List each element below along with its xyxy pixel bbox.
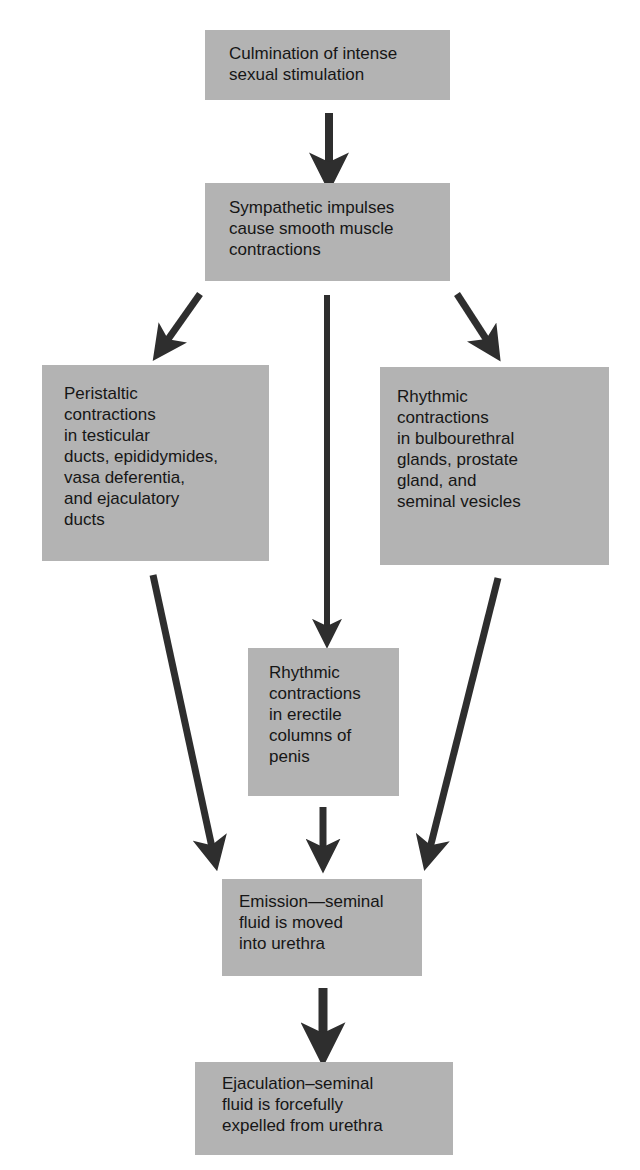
- node-emission: Emission—seminal fluid is moved into ure…: [222, 879, 422, 976]
- arrow-sympathetic-to-peristaltic: [164, 294, 200, 345]
- node-peristaltic: Peristaltic contractions in testicular d…: [42, 365, 269, 561]
- arrow-rhythmic-glands-to-emission: [429, 578, 498, 852]
- node-sympathetic: Sympathetic impulses cause smooth muscle…: [205, 183, 450, 281]
- node-rhythmic-penis: Rhythmic contractions in erectile column…: [248, 648, 399, 796]
- node-rhythmic-glands: Rhythmic contractions in bulbourethral g…: [380, 367, 609, 565]
- arrow-sympathetic-to-rhythmic-glands: [457, 294, 490, 345]
- node-ejaculation: Ejaculation–seminal fluid is forcefully …: [195, 1062, 453, 1155]
- arrows-layer: [0, 0, 640, 1170]
- node-culmination: Culmination of intense sexual stimulatio…: [205, 30, 450, 100]
- arrow-peristaltic-to-emission: [153, 575, 213, 852]
